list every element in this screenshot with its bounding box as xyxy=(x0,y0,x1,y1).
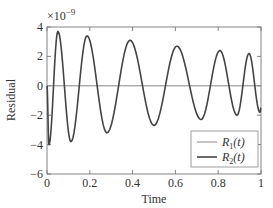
x-tick-label: 0.2 xyxy=(82,176,97,190)
y-tick-label: −4 xyxy=(30,138,43,152)
y-tick-label: 0 xyxy=(37,79,43,93)
legend: R1(t) R2(t) xyxy=(191,131,258,167)
legend-label-r2: R2(t) xyxy=(221,150,245,166)
y-tick-label: 2 xyxy=(37,49,43,63)
residual-chart: 00.20.40.60.81−6−4−2024 ×10−9 Time Resid… xyxy=(0,0,273,208)
legend-label-r1: R1(t) xyxy=(221,135,245,151)
y-tick-label: −2 xyxy=(30,108,43,122)
x-tick-label: 0.4 xyxy=(125,176,140,190)
y-tick-label: 4 xyxy=(37,20,43,34)
series-line-2 xyxy=(47,31,261,144)
series-layer xyxy=(47,31,261,144)
y-axis-label: Residual xyxy=(4,78,18,121)
x-tick-label: 0.8 xyxy=(211,176,226,190)
x-tick-label: 1 xyxy=(258,176,264,190)
x-tick-label: 0.6 xyxy=(168,176,183,190)
y-tick-label: −6 xyxy=(30,167,43,181)
x-tick-label: 0 xyxy=(44,176,50,190)
y-multiplier-label: ×10−9 xyxy=(47,7,76,23)
x-axis-label: Time xyxy=(142,192,167,206)
